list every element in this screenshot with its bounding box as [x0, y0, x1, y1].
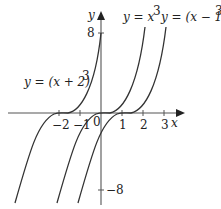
- annotation-x-plus-2-cubed: y = (x + 2) 3: [23, 69, 90, 89]
- tick-label-3: 3: [161, 118, 169, 132]
- annotation-x-cubed: y = x 3: [122, 4, 161, 24]
- tick-label-neg1: −1: [73, 118, 91, 132]
- svg-text:y = x: y = x: [122, 10, 154, 24]
- tick-label-8: 8: [87, 26, 95, 40]
- svg-text:y = (x + 2): y = (x + 2): [23, 75, 90, 89]
- tick-label-neg8: −8: [106, 183, 124, 197]
- tick-label-2: 2: [140, 118, 148, 132]
- y-axis-label: y: [87, 8, 95, 22]
- svg-text:3: 3: [153, 4, 161, 18]
- cubic-graph: y x 8 −8 −2 −1 0 1 2 3 y = (x + 2) 3 y =…: [0, 0, 221, 209]
- tick-label-1: 1: [119, 118, 127, 132]
- x-axis-label: x: [171, 116, 178, 130]
- svg-text:3: 3: [215, 4, 221, 18]
- tick-label-neg2: −2: [52, 118, 70, 132]
- svg-text:y = (x − 1): y = (x − 1): [160, 10, 221, 24]
- tick-label-0: 0: [93, 115, 101, 129]
- y-axis-arrow-icon: [97, 11, 105, 20]
- annotation-x-minus-1-cubed: y = (x − 1) 3: [160, 4, 221, 24]
- svg-text:3: 3: [82, 69, 90, 83]
